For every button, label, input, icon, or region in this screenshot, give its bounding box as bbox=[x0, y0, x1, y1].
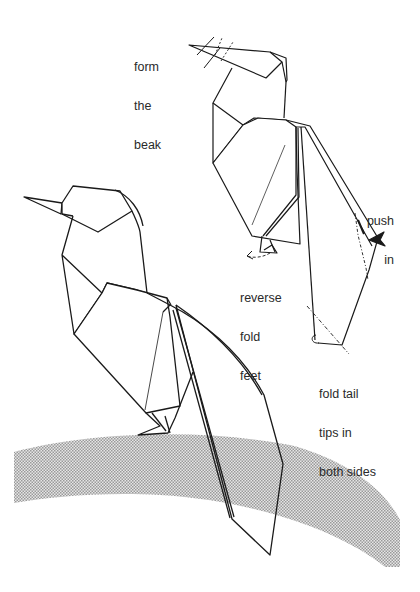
annotation-beak-line-1: form bbox=[134, 61, 161, 74]
step-beak bbox=[189, 45, 282, 78]
annotation-feet-line-1: reverse bbox=[240, 292, 282, 305]
annotation-beak-line-3: beak bbox=[134, 139, 161, 152]
finished-beak bbox=[24, 197, 62, 214]
annotation-push: push in bbox=[362, 189, 394, 280]
annotation-feet-line-3: feet bbox=[240, 370, 282, 383]
step-bird bbox=[189, 37, 385, 354]
annotation-feet-line-2: fold bbox=[240, 331, 282, 344]
annotation-beak: form the beak bbox=[134, 35, 161, 165]
annotation-tail-line-1: fold tail bbox=[319, 388, 376, 401]
annotation-push-line-2: in bbox=[362, 254, 394, 267]
annotation-tail-line-2: tips in bbox=[319, 427, 376, 440]
annotation-feet: reverse fold feet bbox=[240, 266, 282, 396]
annotation-push-line-1: push bbox=[362, 215, 394, 228]
step-body bbox=[213, 118, 300, 244]
annotation-beak-line-2: the bbox=[134, 100, 161, 113]
annotation-tail: fold tail tips in both sides bbox=[319, 362, 376, 492]
diagram-canvas bbox=[0, 0, 420, 592]
annotation-tail-line-3: both sides bbox=[319, 466, 376, 479]
